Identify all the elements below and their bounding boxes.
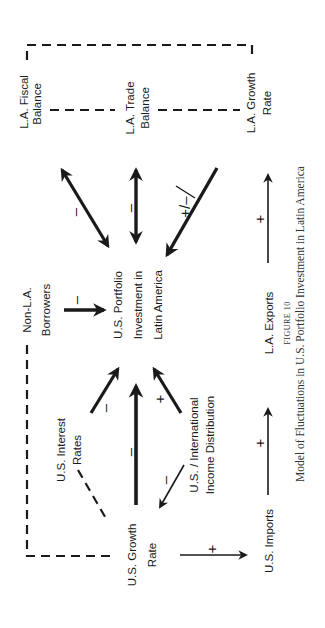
sign-usgrowth-center: – (121, 447, 138, 456)
non-la-line2: Borrowers (40, 284, 52, 337)
sign-income-usgrowth: – (156, 475, 173, 484)
center-line2: Investment in (132, 271, 144, 339)
figure-canvas: – – +/– – – – + – + + + L.A. Fiscal Bala… (0, 0, 325, 628)
us-income-line2: Income Distribution (204, 396, 216, 494)
figure-number: FIGURE 10 (283, 301, 292, 344)
la-fiscal-line2: Balance (31, 83, 43, 125)
dash-interest-growth (78, 470, 108, 522)
slash-mark (176, 186, 195, 198)
center-line1: U.S. Portfolio (112, 271, 124, 339)
sign-income-center: + (151, 394, 168, 403)
la-trade-line2: Balance (139, 87, 151, 129)
us-income-line1: U.S. / International (188, 397, 200, 492)
us-growth-line2: Rate (146, 543, 158, 567)
la-growth-line2: Rate (261, 91, 273, 115)
sign-center-trade: – (121, 203, 138, 212)
node-labels: L.A. Fiscal Balance L.A. Trade Balance L… (18, 73, 275, 587)
sign-nonla-center: – (67, 295, 84, 304)
la-trade-line1: L.A. Trade (124, 81, 136, 134)
us-interest-line2: Rates (71, 435, 83, 465)
la-exports-label: L.A. Exports (263, 291, 275, 354)
sign-usgrowth-imports: + (203, 544, 220, 553)
us-imports-label: U.S. Imports (263, 509, 275, 573)
us-growth-line1: U.S. Growth (126, 524, 138, 587)
sign-lagrowth-center: +/– (176, 196, 193, 218)
sign-center-fiscal: – (66, 207, 83, 216)
la-fiscal-line1: L.A. Fiscal (18, 75, 30, 129)
left-dashed-loop (27, 345, 112, 556)
arrow-income-center (154, 369, 181, 413)
center-line3: Latin America (152, 270, 164, 340)
figure-caption: FIGURE 10 Model of Fluctuations in U.S. … (283, 166, 306, 482)
top-dashed-loop (27, 45, 252, 60)
us-interest-line1: U.S. Interest (55, 417, 67, 482)
la-growth-line1: L.A. Growth (245, 73, 257, 134)
arrow-income-usgrowth (160, 465, 184, 507)
sign-interest-center: – (96, 403, 113, 412)
diagram: – – +/– – – – + – + + + L.A. Fiscal Bala… (0, 0, 325, 628)
sign-imports-exports: + (251, 438, 268, 447)
sign-exports-lagrowth: + (251, 214, 268, 223)
caption-text: Model of Fluctuations in U.S. Portfolio … (294, 166, 306, 482)
non-la-line1: Non-L.A. (21, 287, 33, 332)
